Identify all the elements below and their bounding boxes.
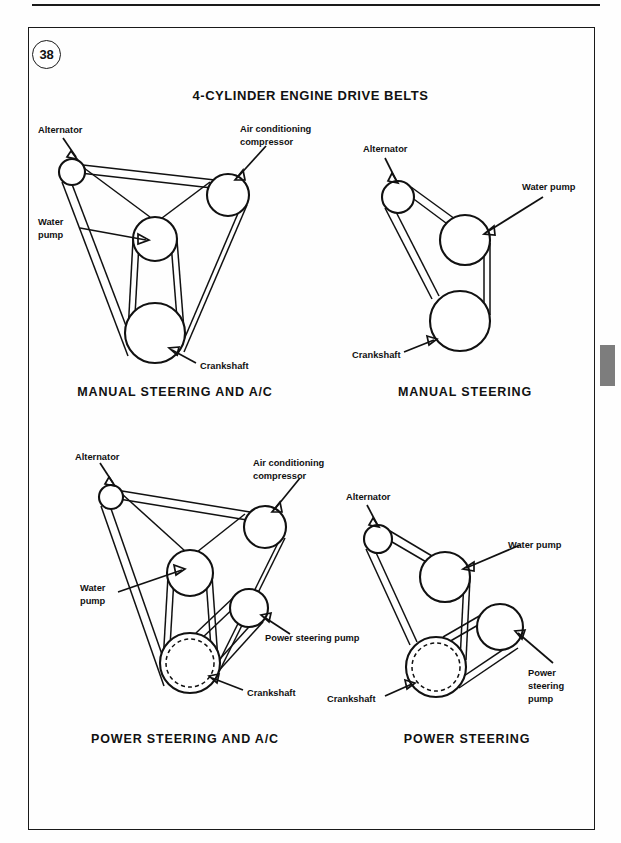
diagram-power-steering: Alternator Water pump Power steering pum… — [0, 0, 621, 843]
pulley-water-pump — [420, 552, 470, 602]
manual-page: 38 4-CYLINDER ENGINE DRIVE BELTS — [0, 0, 621, 843]
label-ps-line2: steering — [528, 681, 564, 691]
pulley-power-steering-pump — [477, 604, 523, 650]
label-crankshaft: Crankshaft — [327, 694, 376, 704]
caption-power-steering: POWER STEERING — [372, 732, 562, 746]
pulley-alternator — [364, 525, 392, 553]
label-ps-line1: Power — [528, 668, 556, 678]
label-ps-line3: pump — [528, 694, 554, 704]
arrowhead-alternator — [369, 518, 379, 527]
pulley-crankshaft — [406, 637, 466, 697]
leader-crankshaft — [385, 684, 412, 696]
label-water-pump: Water pump — [508, 540, 562, 550]
label-alternator: Alternator — [346, 492, 391, 502]
